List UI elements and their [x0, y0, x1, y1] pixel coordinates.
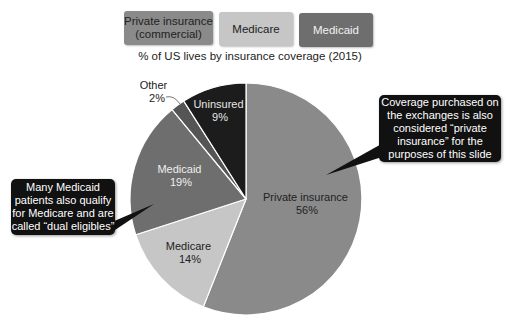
- callout-line: purposes of this slide: [381, 148, 498, 161]
- callout-line: for Medicare and are: [12, 207, 115, 220]
- callout-line: patients also qualify: [12, 194, 115, 207]
- pie-chart: Private insurance 56% Medicare 14% Medic…: [0, 0, 511, 329]
- callout-dual-eligibles-note: Many Medicaid patients also qualify for …: [11, 179, 115, 235]
- callout-line: Many Medicaid: [12, 181, 115, 194]
- callout-exchanges-note: Coverage purchased on the exchanges is a…: [379, 95, 501, 162]
- callout-line: the exchanges is also: [381, 109, 498, 122]
- other-leader-line: [166, 97, 180, 104]
- callout-line: Coverage purchased on: [381, 96, 498, 109]
- callout-line: insurance” for the: [381, 135, 498, 148]
- callout-line: considered “private: [381, 122, 498, 135]
- callout-line: called “dual eligibles”: [12, 220, 115, 233]
- slice-label-other: Other 2%: [140, 79, 171, 104]
